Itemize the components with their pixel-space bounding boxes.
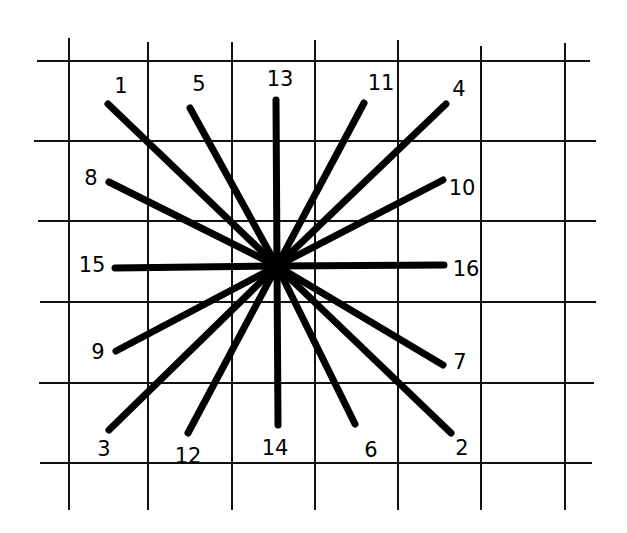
ray-label-2: 2 bbox=[455, 436, 468, 460]
ray-label-1: 1 bbox=[114, 74, 127, 98]
ray-label-7: 7 bbox=[453, 350, 466, 374]
ray-label-4: 4 bbox=[452, 77, 465, 101]
ray-label-12: 12 bbox=[175, 444, 202, 468]
center-hub bbox=[268, 257, 286, 275]
ray-line-2 bbox=[277, 266, 451, 433]
ray-label-16: 16 bbox=[453, 257, 480, 281]
ray-line-4 bbox=[277, 104, 446, 266]
ray-line-15 bbox=[115, 266, 277, 268]
ray-label-13: 13 bbox=[267, 67, 294, 91]
ray-label-11: 11 bbox=[368, 71, 395, 95]
ray-group bbox=[108, 100, 451, 433]
ray-label-6: 6 bbox=[364, 438, 377, 462]
ray-label-14: 14 bbox=[262, 436, 289, 460]
ray-line-14 bbox=[277, 266, 278, 425]
ray-label-3: 3 bbox=[97, 437, 110, 461]
ray-line-1 bbox=[108, 104, 277, 266]
ray-line-13 bbox=[276, 100, 277, 266]
ray-label-5: 5 bbox=[192, 72, 205, 96]
ray-label-8: 8 bbox=[84, 166, 97, 190]
ray-label-10: 10 bbox=[449, 176, 476, 200]
radial-lines-diagram: 12345678910111213141516 bbox=[0, 0, 627, 533]
grid-paper bbox=[34, 38, 596, 510]
ray-line-3 bbox=[109, 266, 277, 430]
ray-label-15: 15 bbox=[79, 253, 106, 277]
ray-line-16 bbox=[277, 265, 444, 266]
ray-label-9: 9 bbox=[91, 340, 104, 364]
